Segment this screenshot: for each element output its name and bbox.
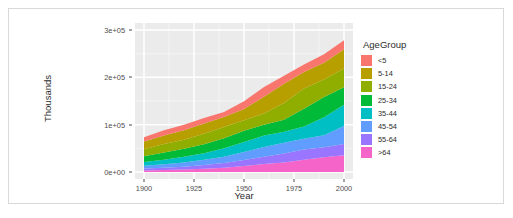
legend-item-label: 15-24 [378,82,397,91]
x-tick-label: 1975 [286,184,302,193]
legend-swatch-icon [361,55,372,66]
legend-items: <55-1415-2425-3435-4445-5455-64>64 [361,55,481,158]
legend-item-label: 55-64 [378,135,397,144]
x-tick-mark [144,179,145,182]
legend-item-label: >64 [378,148,391,157]
legend-swatch-icon [361,121,372,132]
x-tick-label: 1950 [236,184,252,193]
chart-figure: Thousands Year 0e+001e+052e+053e+05 1900… [9,9,503,203]
x-tick-label: 1925 [186,184,202,193]
legend-item-label: 25-34 [378,96,397,105]
legend-item-5-14[interactable]: 5-14 [361,68,481,80]
legend-swatch-icon [361,81,372,92]
legend-item-35-44[interactable]: 35-44 [361,107,481,119]
x-tick-mark [294,179,295,182]
legend-item-label: 5-14 [378,69,393,78]
legend-swatch-icon [361,108,372,119]
legend-swatch-icon [361,134,372,145]
legend-item-label: <5 [378,56,386,65]
x-tick-label: 1900 [136,184,152,193]
legend-item-label: 35-44 [378,109,397,118]
legend-swatch-icon [361,147,372,158]
stacked-area-plot [135,23,353,179]
legend-item-<5[interactable]: <5 [361,55,481,67]
legend-item-label: 45-54 [378,122,397,131]
legend-swatch-icon [361,68,372,79]
legend-item-15-24[interactable]: 15-24 [361,81,481,93]
x-tick-mark [244,179,245,182]
legend-title: AgeGroup [363,39,481,50]
legend-item->64[interactable]: >64 [361,147,481,159]
x-tick-label: 2000 [336,184,352,193]
legend-item-45-54[interactable]: 45-54 [361,120,481,132]
x-tick-mark [344,179,345,182]
legend-item-25-34[interactable]: 25-34 [361,94,481,106]
x-tick-mark [194,179,195,182]
legend-item-55-64[interactable]: 55-64 [361,134,481,146]
legend-swatch-icon [361,95,372,106]
legend: AgeGroup <55-1415-2425-3435-4445-5455-64… [361,39,481,160]
plot-panel [135,23,353,179]
screenshot-frame: Thousands Year 0e+001e+052e+053e+05 1900… [8,8,504,204]
